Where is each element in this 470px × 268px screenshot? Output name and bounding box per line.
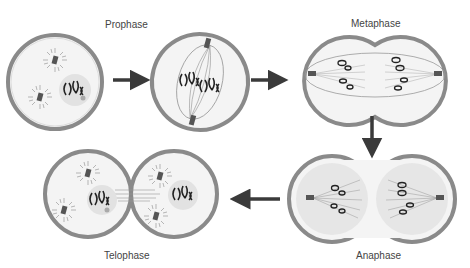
prometaphase-cell [141, 23, 259, 141]
metaphase-cell [304, 37, 446, 125]
prophase-cell [8, 35, 102, 129]
label-metaphase: Metaphase [351, 18, 400, 29]
label-telophase: Telophase [104, 250, 150, 261]
label-prophase: Prophase [105, 19, 148, 30]
label-anaphase: Anaphase [356, 250, 401, 261]
telophase-cell [45, 151, 217, 237]
anaphase-cell [289, 156, 455, 242]
mitosis-diagram [0, 0, 470, 268]
